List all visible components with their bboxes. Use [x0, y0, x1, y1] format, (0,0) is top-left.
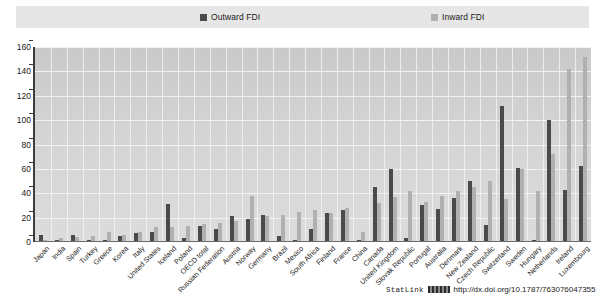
bar-group: [210, 47, 226, 242]
bar-inward: [265, 216, 269, 242]
legend-swatch-outward: [200, 14, 207, 21]
bar-inward: [329, 213, 333, 242]
legend-entry-inward: Inward FDI: [431, 12, 485, 22]
barcode-icon: [428, 286, 450, 293]
bar-group: [51, 47, 67, 242]
bar-inward: [345, 208, 349, 242]
bar-inward: [440, 196, 444, 242]
x-axis-baseline: [35, 241, 591, 242]
bar-group: [369, 47, 385, 242]
bar-group: [448, 47, 464, 242]
x-tick-label: India: [50, 244, 67, 261]
bar-group: [321, 47, 337, 242]
bar-inward: [520, 169, 524, 242]
bar-inward: [424, 202, 428, 242]
bar-inward: [583, 57, 587, 242]
y-tick-label: 60: [5, 164, 31, 174]
y-tick-label: 120: [5, 91, 31, 101]
bar-group: [114, 47, 130, 242]
bar-group: [257, 47, 273, 242]
bar-group: [289, 47, 305, 242]
bar-inward: [472, 187, 476, 242]
bar-group: [385, 47, 401, 242]
bar-group: [194, 47, 210, 242]
bar-group: [242, 47, 258, 242]
bar-group: [528, 47, 544, 242]
bar-group: [512, 47, 528, 242]
bar-inward: [218, 223, 222, 243]
bar-group: [353, 47, 369, 242]
legend-label-outward: Outward FDI: [211, 12, 260, 22]
statlink-footer: StatLink http://dx.doi.org/10.1787/76307…: [386, 285, 596, 294]
bar-inward: [154, 227, 158, 242]
bar-group: [575, 47, 591, 242]
bar-groups: [35, 47, 591, 242]
bar-group: [146, 47, 162, 242]
bar-group: [35, 47, 51, 242]
bar-group: [162, 47, 178, 242]
bar-inward: [170, 227, 174, 242]
y-tick-label: 40: [5, 188, 31, 198]
bar-inward: [567, 69, 571, 242]
bar-inward: [250, 196, 254, 242]
bar-group: [464, 47, 480, 242]
fdi-bar-chart-figure: Outward FDI Inward FDI 02040608010012014…: [0, 0, 602, 304]
y-tick-label: 160: [5, 42, 31, 52]
y-tick-label: 20: [5, 213, 31, 223]
bar-group: [337, 47, 353, 242]
bar-group: [305, 47, 321, 242]
bar-inward: [297, 212, 301, 242]
chart-legend: Outward FDI Inward FDI: [16, 6, 589, 28]
bar-inward: [202, 224, 206, 242]
legend-entry-outward: Outward FDI: [200, 12, 260, 22]
bar-inward: [377, 203, 381, 242]
statlink-label: StatLink: [386, 286, 424, 294]
y-axis: 020406080100120140160: [0, 40, 31, 250]
bar-inward: [551, 154, 555, 242]
bar-inward: [488, 181, 492, 242]
bar-group: [496, 47, 512, 242]
bar-inward: [456, 191, 460, 242]
bar-inward: [504, 199, 508, 242]
bar-inward: [234, 221, 238, 242]
y-tick-label: 0: [5, 237, 31, 247]
bar-group: [416, 47, 432, 242]
bar-inward: [313, 210, 317, 242]
bar-group: [273, 47, 289, 242]
bar-group: [130, 47, 146, 242]
plot-area: [33, 47, 591, 242]
bar-group: [432, 47, 448, 242]
bar-group: [99, 47, 115, 242]
y-tick-label: 80: [5, 140, 31, 150]
bar-inward: [536, 191, 540, 242]
legend-label-inward: Inward FDI: [442, 12, 485, 22]
bar-inward: [281, 215, 285, 242]
bar-group: [67, 47, 83, 242]
bar-group: [559, 47, 575, 242]
x-tick-label: Korea: [111, 244, 131, 264]
bar-inward: [186, 226, 190, 242]
bar-group: [83, 47, 99, 242]
bar-group: [226, 47, 242, 242]
y-tick-mark: [29, 40, 33, 41]
x-tick-label: Japan: [31, 244, 51, 264]
bar-group: [480, 47, 496, 242]
bar-inward: [408, 191, 412, 242]
y-tick-label: 100: [5, 115, 31, 125]
bar-inward: [393, 197, 397, 242]
statlink-url[interactable]: http://dx.doi.org/10.1787/763076047355: [454, 285, 596, 294]
bar-group: [544, 47, 560, 242]
bar-group: [178, 47, 194, 242]
bar-group: [400, 47, 416, 242]
y-tick-label: 140: [5, 66, 31, 76]
legend-swatch-inward: [431, 14, 438, 21]
